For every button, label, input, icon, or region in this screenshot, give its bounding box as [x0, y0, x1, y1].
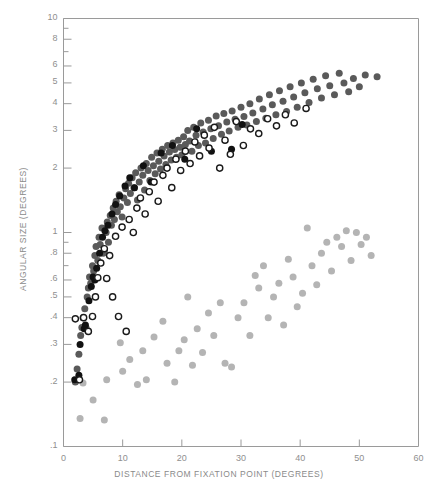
data-point [194, 325, 201, 332]
data-point [253, 118, 260, 125]
x-axis-ticks [123, 440, 360, 447]
data-point [122, 182, 129, 189]
data-point [291, 120, 297, 126]
data-point [323, 239, 330, 246]
data-point [265, 314, 272, 321]
data-point [131, 184, 138, 191]
data-point [193, 125, 200, 132]
data-point [107, 252, 113, 258]
x-axis-title: DISTANCE FROM FIXATION POINT (DEGREES) [0, 469, 438, 479]
y-tick-label: 8 [32, 33, 58, 43]
data-point [134, 205, 140, 211]
data-point [101, 246, 107, 252]
data-point [157, 166, 164, 173]
data-point [345, 88, 352, 95]
data-point [247, 126, 253, 132]
scatter-plot-figure: ANGULAR SIZE (DEGREES) DISTANCE FROM FIX… [0, 0, 438, 493]
data-point [270, 293, 277, 300]
data-point [164, 360, 171, 367]
data-point [82, 321, 89, 328]
data-point [159, 318, 166, 325]
data-point [210, 332, 217, 339]
data-point [99, 234, 106, 241]
x-tick-label: 0 [51, 453, 77, 463]
data-point [196, 153, 202, 159]
data-point [136, 179, 143, 186]
y-tick-label: 4 [32, 97, 58, 107]
data-point [285, 256, 292, 263]
y-tick-label: .4 [32, 311, 58, 321]
data-point [85, 328, 91, 334]
data-point [287, 83, 294, 90]
data-point [260, 262, 267, 269]
data-point [240, 299, 247, 306]
x-tick-label: 10 [110, 453, 136, 463]
data-point [211, 124, 217, 130]
series-dark-gray-filled [72, 70, 381, 386]
data-point [103, 376, 110, 383]
data-point [127, 190, 134, 197]
data-point [290, 93, 297, 100]
plot-canvas [0, 0, 438, 493]
data-point [227, 151, 233, 157]
data-point [266, 91, 273, 98]
plot-frame [64, 19, 419, 447]
data-point [226, 128, 233, 135]
data-point [192, 139, 198, 145]
data-point [299, 290, 306, 297]
data-point [303, 105, 309, 111]
data-point [217, 165, 223, 171]
data-point [155, 158, 162, 165]
data-point [171, 379, 178, 386]
data-point [124, 199, 131, 206]
y-tick-label: 6 [32, 59, 58, 69]
data-point [95, 275, 101, 281]
data-point [117, 339, 124, 346]
data-point [132, 169, 139, 176]
data-point [88, 283, 95, 290]
data-point [81, 305, 88, 312]
data-point [252, 272, 259, 279]
data-point [169, 142, 176, 149]
data-point [126, 174, 133, 181]
data-point [280, 321, 287, 328]
data-point [298, 79, 305, 86]
data-point [336, 70, 343, 77]
x-tick-label: 30 [228, 453, 254, 463]
data-point [105, 239, 112, 246]
data-point [160, 172, 166, 178]
data-point [249, 109, 256, 116]
data-point [314, 85, 321, 92]
y-axis-ticks [64, 19, 72, 447]
data-point [368, 252, 375, 259]
data-point [275, 280, 282, 287]
data-point [222, 137, 228, 143]
data-point [273, 123, 279, 129]
y-tick-label: 10 [32, 12, 58, 22]
data-point [246, 100, 253, 107]
data-point [130, 229, 136, 235]
data-point [197, 119, 204, 126]
data-point [75, 351, 82, 358]
data-point [322, 72, 329, 79]
data-point [85, 297, 92, 304]
data-point [309, 262, 316, 269]
data-point [256, 96, 263, 103]
data-point [188, 148, 195, 155]
data-point [112, 201, 119, 208]
data-point [313, 281, 320, 288]
data-point [116, 193, 123, 200]
data-point [265, 116, 271, 122]
data-point [205, 117, 212, 124]
data-point [259, 105, 266, 112]
data-point [126, 356, 133, 363]
data-point [246, 332, 253, 339]
data-point [228, 364, 235, 371]
data-point [282, 112, 288, 118]
data-point [152, 170, 159, 177]
data-point [333, 234, 340, 241]
data-point [201, 132, 207, 138]
data-point [290, 273, 297, 280]
data-point [229, 107, 236, 114]
data-point [276, 87, 283, 94]
